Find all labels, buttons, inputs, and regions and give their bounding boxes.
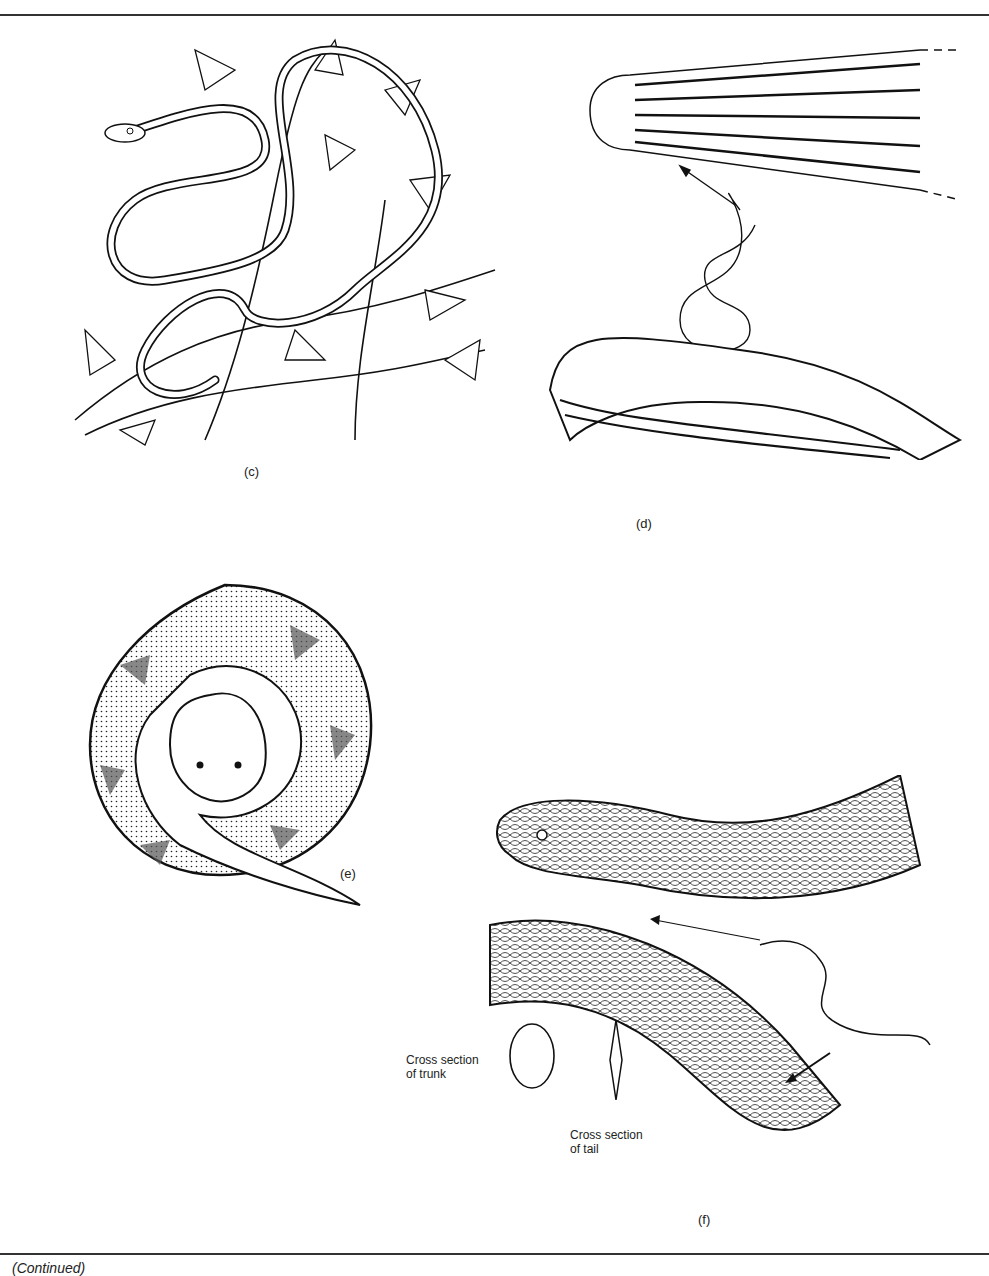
top-rule <box>0 14 989 16</box>
bottom-rule <box>0 1253 989 1255</box>
annotation-cross-section-trunk: Cross section of trunk <box>406 1053 479 1081</box>
sea-snake-illustration <box>470 775 970 1175</box>
annotation-tail-line-1: Cross section <box>570 1128 643 1142</box>
annotation-trunk-line-1: Cross section <box>406 1053 479 1067</box>
burrowing-snake-illustration <box>540 30 980 460</box>
annotation-cross-section-tail: Cross section of tail <box>570 1128 643 1156</box>
panel-label-e: (e) <box>340 866 356 881</box>
annotation-trunk-line-2: of trunk <box>406 1067 479 1081</box>
figure-panel-f <box>470 775 970 1175</box>
figure-panel-d <box>540 30 980 460</box>
panel-label-f: (f) <box>698 1212 710 1227</box>
panel-label-d: (d) <box>636 516 652 531</box>
continued-caption: (Continued) <box>12 1261 85 1275</box>
panel-label-c: (c) <box>244 464 259 479</box>
vine-snake-illustration <box>55 30 505 450</box>
figure-panel-c <box>55 30 505 450</box>
annotation-tail-line-2: of tail <box>570 1142 643 1156</box>
